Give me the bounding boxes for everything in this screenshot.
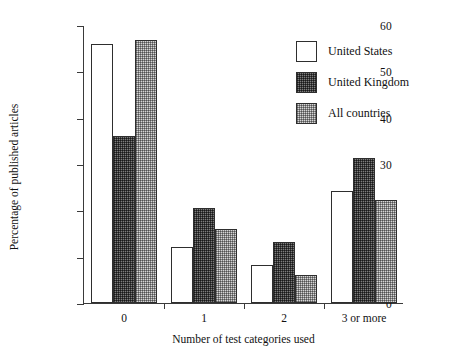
bar — [135, 40, 157, 303]
x-tick-label: 2 — [281, 312, 287, 324]
y-tick-mark — [77, 165, 84, 166]
legend-label: United States — [328, 44, 392, 59]
y-tick-mark — [77, 72, 84, 73]
x-tick-mark — [324, 303, 325, 309]
legend-item: All countries — [296, 98, 409, 129]
bar — [91, 44, 113, 303]
x-axis-title: Number of test categories used — [84, 333, 403, 345]
bar — [273, 242, 295, 303]
y-tick-mark — [77, 258, 84, 259]
x-tick-mark — [164, 303, 165, 309]
x-tick-mark — [244, 303, 245, 309]
legend-label: All countries — [328, 106, 390, 121]
legend-item: United States — [296, 36, 409, 67]
bar-chart: Percentage of published articles 0102030… — [0, 0, 452, 354]
bar — [331, 191, 353, 303]
bar — [171, 247, 193, 303]
y-tick-mark — [77, 304, 84, 305]
bar — [375, 200, 397, 303]
y-tick-mark — [77, 26, 84, 27]
legend-swatch-icon — [296, 72, 317, 93]
legend-label: United Kingdom — [328, 75, 409, 90]
y-axis-title: Percentage of published articles — [8, 104, 20, 251]
y-tick-mark — [77, 119, 84, 120]
y-tick-label: 60 — [380, 20, 392, 32]
bar — [215, 229, 237, 303]
y-tick-mark — [77, 211, 84, 212]
chart-legend: United StatesUnited KingdomAll countries — [296, 36, 409, 129]
bar — [295, 275, 317, 303]
y-tick-label: 30 — [380, 159, 392, 171]
x-tick-label: 0 — [121, 312, 127, 324]
x-tick-label: 3 or more — [342, 312, 387, 324]
x-tick-label: 1 — [201, 312, 207, 324]
legend-swatch-icon — [296, 103, 317, 124]
legend-swatch-icon — [296, 41, 317, 62]
legend-item: United Kingdom — [296, 67, 409, 98]
bar — [193, 208, 215, 303]
bar — [353, 158, 375, 303]
bar — [251, 265, 273, 303]
bar — [113, 136, 135, 303]
